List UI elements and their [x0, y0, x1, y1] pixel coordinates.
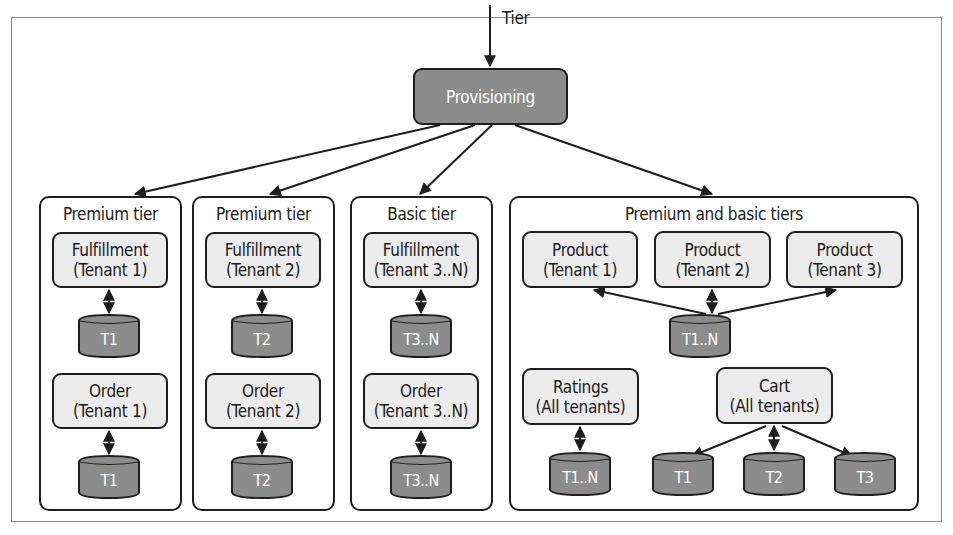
db-t1-order: T1 [79, 471, 139, 490]
arrow-to-combined [515, 125, 712, 194]
db-cart-t2: T2 [744, 468, 804, 487]
db-product-shared: T1..N [670, 330, 730, 349]
arrow-to-premium1 [135, 125, 440, 194]
db-t1-fulfillment: T1 [79, 330, 139, 349]
arrow-to-premium2 [270, 125, 475, 194]
connections-layer [0, 0, 953, 535]
db-cart-t3: T3 [835, 468, 895, 487]
db-t2-fulfillment: T2 [232, 330, 292, 349]
db-t3n-order: T3..N [391, 471, 451, 490]
db-cart-t1: T1 [653, 468, 713, 487]
db-t3n-fulfillment: T3..N [391, 330, 451, 349]
arrow-to-basic [420, 125, 492, 194]
db-ratings: T1..N [550, 468, 610, 487]
db-t2-order: T2 [232, 471, 292, 490]
